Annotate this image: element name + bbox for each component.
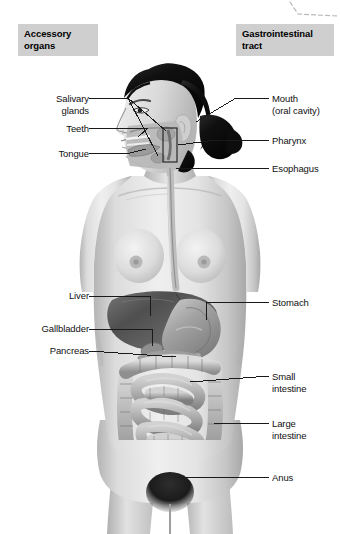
label-liver: Liver [69,290,89,302]
label-esophagus: Esophagus [272,163,319,175]
digestive-system-figure: Accessory organs Gastrointestinal tract … [0,0,340,534]
label-small-intestine: Small intestine [272,371,306,394]
label-pharynx: Pharynx [272,135,306,147]
label-tongue: Tongue [58,148,89,160]
label-large-intestine: Large intestine [272,418,306,441]
label-mouth-oral-cavity: Mouth (oral cavity) [272,93,320,116]
label-anus: Anus [272,472,293,484]
header-gastrointestinal-tract: Gastrointestinal tract [236,24,334,56]
head-profile [117,63,243,173]
anatomy-illustration [0,0,340,534]
label-teeth: Teeth [66,123,89,135]
dashed-rule-artifact [290,2,338,16]
label-pancreas: Pancreas [50,345,89,357]
label-gallbladder: Gallbladder [42,323,90,335]
label-stomach: Stomach [272,297,309,309]
header-accessory-organs: Accessory organs [18,24,98,56]
label-salivary-glands: Salivary glands [56,93,89,116]
